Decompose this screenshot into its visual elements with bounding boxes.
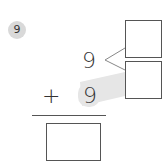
operator-plus: + <box>42 85 60 107</box>
sum-rule-line <box>32 115 106 116</box>
decomposition-box-bottom[interactable] <box>125 61 162 99</box>
top-addend: 9 <box>82 50 96 72</box>
decomposition-box-top[interactable] <box>125 20 162 58</box>
answer-box[interactable] <box>46 123 101 161</box>
bottom-addend: 9 <box>83 85 97 107</box>
